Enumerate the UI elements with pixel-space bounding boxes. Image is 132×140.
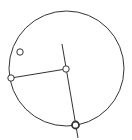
free-point[interactable]: [17, 49, 23, 55]
bottom-point[interactable]: [72, 122, 79, 129]
points: [8, 49, 79, 129]
left-point[interactable]: [8, 75, 14, 81]
center-point[interactable]: [63, 66, 69, 72]
radius-segment: [11, 69, 66, 78]
geometry-diagram: [0, 0, 132, 140]
segments: [11, 44, 78, 138]
